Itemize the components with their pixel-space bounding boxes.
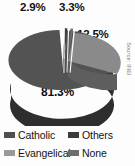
legend-item-others[interactable]: Others: [68, 126, 130, 144]
legend-label-others: Others: [82, 129, 113, 141]
legend-swatch-others: [68, 132, 79, 138]
legend-item-evangelical[interactable]: Evangelical: [4, 144, 66, 162]
source-note: Source: INEI: [126, 42, 132, 76]
legend-label-catholic: Catholic: [18, 129, 55, 141]
slice-label-others: 2.9%: [20, 1, 45, 13]
slice-label-none: 3.3%: [59, 1, 84, 13]
legend-swatch-evangelical: [4, 150, 15, 156]
legend-item-catholic[interactable]: Catholic: [4, 126, 66, 144]
legend-swatch-catholic: [4, 132, 15, 138]
chart-legend: Catholic Others Evangelical None: [4, 126, 132, 162]
legend-swatch-none: [68, 150, 79, 156]
pie-chart-figure: 2.9% 3.3% 12.5% 81.3% Sou: [0, 0, 135, 166]
legend-label-evangelical: Evangelical: [18, 147, 71, 159]
pie-graphic: [0, 14, 125, 126]
legend-item-none[interactable]: None: [68, 144, 130, 162]
legend-label-none: None: [82, 147, 107, 159]
pie-svg: [0, 14, 125, 126]
